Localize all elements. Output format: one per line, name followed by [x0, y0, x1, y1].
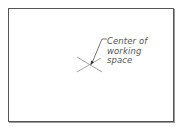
center-cross-icon [77, 57, 102, 72]
leader-line [92, 39, 107, 63]
annotation-line-3: space [107, 56, 147, 66]
diagram-drawing [0, 0, 189, 136]
center-annotation: Center of working space [107, 37, 147, 66]
